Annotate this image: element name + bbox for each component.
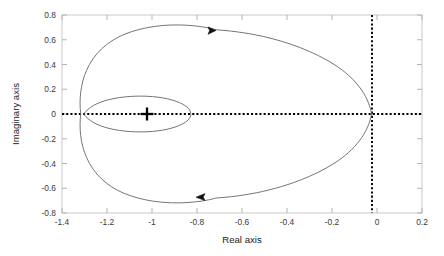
y-tick-label-1: -0.6	[42, 183, 57, 193]
x-tick-label-0: -1.4	[55, 217, 70, 227]
y-tick-label-6: 0.4	[44, 60, 56, 70]
x-axis-title: Real axis	[222, 234, 262, 245]
y-tick-label-5: 0.2	[44, 84, 56, 94]
plot-area-background	[62, 15, 422, 213]
x-tick-label-1: -1.2	[100, 217, 115, 227]
y-tick-label-4: 0	[51, 109, 56, 119]
plot-canvas: -1.4 -1.2 -1 -0.8 -0.6 -0.4 -0.2 0 0.2 0…	[0, 0, 444, 256]
nyquist-plot-figure: -1.4 -1.2 -1 -0.8 -0.6 -0.4 -0.2 0 0.2 0…	[0, 0, 444, 256]
x-tick-label-5: -0.4	[280, 217, 295, 227]
y-tick-label-3: -0.2	[42, 134, 57, 144]
x-tick-label-8: 0.2	[416, 217, 428, 227]
y-tick-label-7: 0.6	[44, 35, 56, 45]
y-tick-label-0: -0.8	[42, 208, 57, 218]
y-tick-label-8: 0.8	[44, 10, 56, 20]
x-tick-label-4: -0.6	[235, 217, 250, 227]
x-tick-label-7: 0	[375, 217, 380, 227]
x-tick-label-2: -1	[148, 217, 156, 227]
x-tick-label-6: -0.2	[325, 217, 340, 227]
y-tick-label-2: -0.4	[42, 159, 57, 169]
x-tick-label-3: -0.8	[190, 217, 205, 227]
y-axis-title: Imaginary axis	[10, 83, 21, 145]
